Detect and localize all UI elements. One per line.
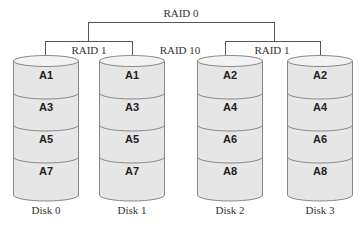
raid0-bracket-top: [88, 22, 275, 23]
block: A3: [99, 101, 165, 113]
disk-3: A2 A4 A6 A8: [287, 55, 353, 202]
disk-0-label: Disk 0: [31, 204, 60, 216]
block: A5: [99, 133, 165, 145]
block: A4: [287, 101, 353, 113]
block: A8: [287, 165, 353, 177]
block: A7: [13, 165, 79, 177]
block: A6: [197, 133, 263, 145]
block: A2: [197, 69, 263, 81]
disk-3-label: Disk 3: [305, 204, 334, 216]
block: A1: [13, 69, 79, 81]
block: A2: [287, 69, 353, 81]
block: A7: [99, 165, 165, 177]
block: A1: [99, 69, 165, 81]
raid0-bracket-left: [88, 22, 89, 41]
disk-1: A1 A3 A5 A7: [99, 55, 165, 202]
disk-1-label: Disk 1: [117, 204, 146, 216]
disk-2: A2 A4 A6 A8: [197, 55, 263, 202]
disk-2-label: Disk 2: [215, 204, 244, 216]
block: A6: [287, 133, 353, 145]
block: A4: [197, 101, 263, 113]
disk-0: A1 A3 A5 A7: [13, 55, 79, 202]
raid1-left-bracket-top: [45, 41, 132, 42]
raid0-label: RAID 0: [163, 7, 198, 19]
block: A8: [197, 165, 263, 177]
raid10-label: RAID 10: [160, 44, 201, 56]
raid0-bracket-right: [274, 22, 275, 41]
raid1-right-bracket-top: [225, 41, 320, 42]
block: A3: [13, 101, 79, 113]
block: A5: [13, 133, 79, 145]
